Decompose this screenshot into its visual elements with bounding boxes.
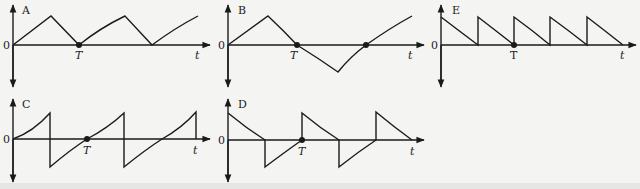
waveform-e: [441, 17, 623, 45]
period-label: T: [83, 144, 92, 157]
time-label: t: [193, 144, 198, 157]
time-label: t: [410, 145, 415, 158]
waveform-a: [13, 16, 198, 45]
waveform-b: [228, 16, 412, 72]
bottom-band: [0, 183, 640, 189]
period-label: T: [510, 49, 518, 62]
period-label: T: [75, 49, 84, 62]
panel-a: A 0 T t: [3, 4, 210, 87]
waveform-figure: A 0 T t B 0 T t E 0 T t C 0 T: [0, 0, 640, 189]
time-label: t: [620, 49, 625, 62]
panel-e: E 0 T t: [431, 4, 636, 87]
zero-label: 0: [431, 39, 438, 52]
panel-c: C 0 T t: [3, 98, 210, 182]
period-marker-dot: [76, 42, 82, 48]
zero-label: 0: [3, 133, 10, 146]
panel-b: B 0 T t: [218, 4, 424, 87]
period-marker-dot: [294, 42, 300, 48]
panel-label: D: [238, 98, 247, 111]
panel-label: B: [238, 4, 246, 17]
time-label: t: [195, 49, 200, 62]
period-marker-dot: [511, 42, 517, 48]
period-label: T: [298, 145, 307, 158]
panel-label: C: [22, 98, 30, 111]
panel-label: A: [21, 4, 31, 17]
period-marker-dot: [84, 136, 90, 142]
panel-label: E: [452, 4, 460, 17]
period-marker-dot: [299, 137, 305, 143]
time-label: t: [408, 49, 413, 62]
zero-label: 0: [218, 39, 225, 52]
zero-crossing-dot: [363, 42, 369, 48]
zero-label: 0: [218, 134, 225, 147]
zero-label: 0: [3, 39, 10, 52]
period-label: T: [290, 49, 299, 62]
panel-d: D 0 T t: [218, 98, 424, 182]
